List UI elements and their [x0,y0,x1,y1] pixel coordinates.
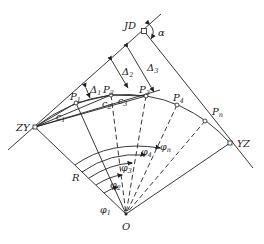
phi3-label: φ3 [121,162,132,175]
delta1-label: Δ1 [89,84,101,97]
curve-setting-out-diagram: JD α ZY YZ O R P1 P2 P3 P4 Pn Δ1 Δ2 Δ3 c… [0,0,264,244]
pn-point [203,119,207,123]
radius-line-zy-o [35,127,126,214]
radial-line-pn [126,121,205,214]
tangent-line-zy-jd [8,14,161,150]
alpha-arc [150,25,153,39]
o-point [125,213,128,216]
delta2-label: Δ2 [121,66,133,79]
delta3-label: Δ3 [146,62,158,75]
phi4-arc [82,155,145,172]
alpha-label: α [158,27,165,38]
jd-point [142,29,147,34]
phi1-label: φ1 [100,204,111,217]
c1-label: c1 [56,111,65,124]
yz-point [228,141,232,145]
p4-point [175,103,179,107]
radial-line-p1 [76,103,126,214]
r-label: R [71,172,80,183]
yz-label: YZ [237,138,250,149]
phi4-label: φ4 [141,146,152,159]
zy-point [33,125,37,129]
radial-line-p4 [126,105,177,214]
radial-line-p2 [111,95,126,214]
zy-label: ZY [15,122,31,133]
phin-label: φn [160,141,171,154]
c3-label: c3 [118,95,127,108]
c2-label: c2 [102,98,111,111]
o-label: O [122,221,130,232]
jd-label: JD [122,20,136,31]
